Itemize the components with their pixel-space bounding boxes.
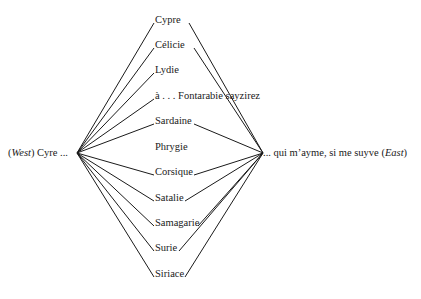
connector-line-west xyxy=(77,73,154,153)
connector-line-west xyxy=(77,153,154,251)
node-lydie: Lydie xyxy=(155,64,179,76)
connector-line-east xyxy=(189,23,263,153)
connector-line-east xyxy=(185,153,263,201)
east-node: ... qui m’ayme, si me suyve (East) xyxy=(263,147,407,159)
node-celicie: Célicie xyxy=(155,39,185,51)
node-satalie: Satalie xyxy=(155,192,184,204)
node-samagarie: Samagarie xyxy=(155,217,199,229)
connector-line-east xyxy=(194,124,263,153)
node-siriace: Siriace xyxy=(155,268,184,280)
connector-line-west xyxy=(77,23,154,153)
east-direction-label: East xyxy=(385,147,404,158)
node-corsique: Corsique xyxy=(155,166,193,178)
connector-line-west xyxy=(77,48,154,153)
connector-line-west xyxy=(77,153,154,201)
west-node: (West) Cyre ... xyxy=(8,147,68,159)
west-direction-label: West xyxy=(12,147,31,158)
node-fontarabie: à . . . Fontarabie sayzirez xyxy=(155,90,260,102)
east-node-text: ... qui m’ayme, si me suyve ( xyxy=(263,147,385,158)
node-cypre: Cypre xyxy=(155,14,181,26)
node-phrygie: Phrygie xyxy=(155,141,188,153)
node-surie: Surie xyxy=(155,242,177,254)
node-sardaine: Sardaine xyxy=(155,115,192,127)
connector-line-west xyxy=(77,124,154,153)
connector-line-east xyxy=(185,153,263,277)
connector-line-west xyxy=(77,99,154,153)
west-node-text: ) Cyre ... xyxy=(31,147,68,158)
east-node-suffix: ) xyxy=(404,147,408,158)
